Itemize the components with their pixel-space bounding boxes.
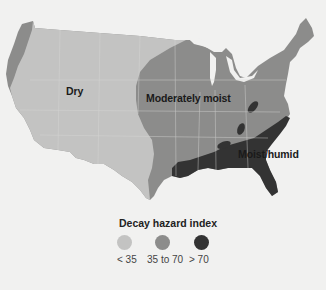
legend-label-high: > 70 bbox=[189, 254, 209, 265]
label-moist-humid: Moist/humid bbox=[238, 148, 299, 160]
label-moderately-moist: Moderately moist bbox=[146, 92, 231, 104]
label-dry: Dry bbox=[66, 85, 83, 97]
legend-swatch-high bbox=[194, 235, 209, 250]
us-map-svg bbox=[0, 0, 326, 210]
legend-swatch-low bbox=[117, 235, 132, 250]
legend-label-medium: 35 to 70 bbox=[147, 254, 183, 265]
decay-hazard-map: Dry Moderately moist Moist/humid bbox=[0, 0, 326, 210]
legend-swatch-medium bbox=[155, 235, 170, 250]
legend-title: Decay hazard index bbox=[119, 217, 217, 229]
legend-label-low: < 35 bbox=[117, 254, 137, 265]
